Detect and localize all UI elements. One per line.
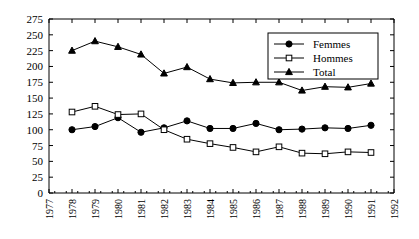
x-tick-label: 1978: [67, 199, 78, 219]
marker-hommes: [92, 104, 98, 110]
x-tick-label: 1984: [205, 199, 216, 219]
marker-total: [207, 76, 214, 82]
x-tick-label: 1979: [90, 199, 101, 219]
marker-femmes: [368, 122, 374, 128]
x-tick-label: 1980: [113, 199, 124, 219]
marker-femmes: [230, 125, 236, 131]
marker-hommes: [115, 112, 121, 118]
marker-femmes: [184, 118, 190, 124]
marker-femmes: [138, 129, 144, 135]
series-femmes: [69, 115, 374, 136]
legend-label-femmes: Femmes: [313, 38, 350, 50]
marker-femmes: [299, 126, 305, 132]
marker-hommes: [345, 149, 351, 155]
marker-total: [92, 38, 99, 44]
marker-hommes: [299, 150, 305, 156]
marker-hommes: [276, 144, 282, 150]
marker-hommes: [207, 141, 213, 147]
x-tick-label: 1982: [159, 199, 170, 219]
y-tick-label: 125: [27, 108, 44, 120]
marker-hommes: [286, 55, 292, 61]
marker-hommes: [184, 136, 190, 142]
marker-total: [184, 63, 191, 69]
y-tick-label: 225: [27, 45, 44, 57]
marker-hommes: [161, 127, 167, 133]
x-tick-label: 1983: [182, 199, 193, 219]
y-tick-label: 100: [27, 124, 44, 136]
y-tick-label: 50: [32, 155, 44, 167]
chart-container: 0255075100125150175200225250275197719781…: [0, 0, 419, 239]
marker-hommes: [138, 111, 144, 117]
x-tick-label: 1991: [366, 199, 377, 219]
y-tick-label: 200: [27, 60, 44, 72]
y-tick-label: 175: [27, 76, 44, 88]
y-tick-label: 0: [38, 187, 44, 199]
x-tick-label: 1981: [136, 199, 147, 219]
marker-femmes: [345, 125, 351, 131]
x-tick-label: 1985: [228, 199, 239, 219]
y-tick-label: 275: [27, 13, 44, 25]
x-tick-label: 1977: [44, 199, 55, 219]
line-chart: 0255075100125150175200225250275197719781…: [0, 0, 419, 239]
marker-hommes: [368, 150, 374, 156]
x-tick-label: 1987: [274, 199, 285, 219]
marker-hommes: [69, 109, 75, 115]
marker-hommes: [322, 151, 328, 157]
x-tick-label: 1992: [389, 199, 400, 219]
legend-label-total: Total: [313, 66, 335, 78]
marker-femmes: [286, 41, 292, 47]
y-tick-label: 25: [32, 171, 44, 183]
y-tick-label: 75: [32, 140, 44, 152]
marker-femmes: [92, 123, 98, 129]
x-tick-label: 1986: [251, 199, 262, 219]
x-tick-label: 1990: [343, 199, 354, 219]
x-tick-label: 1988: [297, 199, 308, 219]
marker-femmes: [69, 127, 75, 133]
marker-femmes: [253, 120, 259, 126]
y-tick-label: 250: [27, 29, 44, 41]
series-hommes: [69, 104, 374, 157]
y-tick-label: 150: [27, 92, 44, 104]
legend-label-hommes: Hommes: [313, 52, 353, 64]
marker-hommes: [230, 145, 236, 151]
marker-femmes: [322, 125, 328, 131]
marker-hommes: [253, 149, 259, 155]
marker-total: [322, 83, 329, 89]
chart-legend: FemmesHommesTotal: [268, 33, 378, 79]
marker-total: [368, 80, 375, 86]
marker-femmes: [207, 125, 213, 131]
x-tick-label: 1989: [320, 199, 331, 219]
marker-femmes: [276, 127, 282, 133]
